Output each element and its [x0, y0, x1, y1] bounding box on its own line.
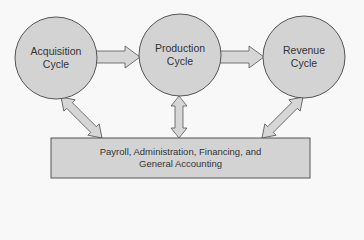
label-payroll-box: Payroll, Administration, Financing, and … — [51, 138, 310, 178]
label-acquisition-line1: Acquisition — [31, 45, 82, 58]
label-payroll-line1: Payroll, Administration, Financing, and — [100, 146, 262, 158]
label-production-line2: Cycle — [155, 55, 205, 68]
label-revenue-line2: Cycle — [283, 57, 325, 70]
arrow-acquisition-to-production — [96, 46, 140, 68]
arrow-production-to-revenue — [219, 46, 264, 68]
label-revenue-cycle: Revenue Cycle — [283, 44, 325, 70]
label-acquisition-cycle: Acquisition Cycle — [31, 45, 82, 71]
arrow-revenue-payroll — [256, 91, 308, 143]
label-payroll-line2: General Accounting — [139, 158, 222, 170]
label-revenue-line1: Revenue — [283, 44, 325, 57]
label-production-line1: Production — [155, 42, 205, 55]
arrow-production-payroll — [171, 96, 187, 138]
label-production-cycle: Production Cycle — [155, 42, 205, 68]
arrow-acquisition-payroll — [55, 91, 107, 143]
label-acquisition-line2: Cycle — [31, 58, 82, 71]
